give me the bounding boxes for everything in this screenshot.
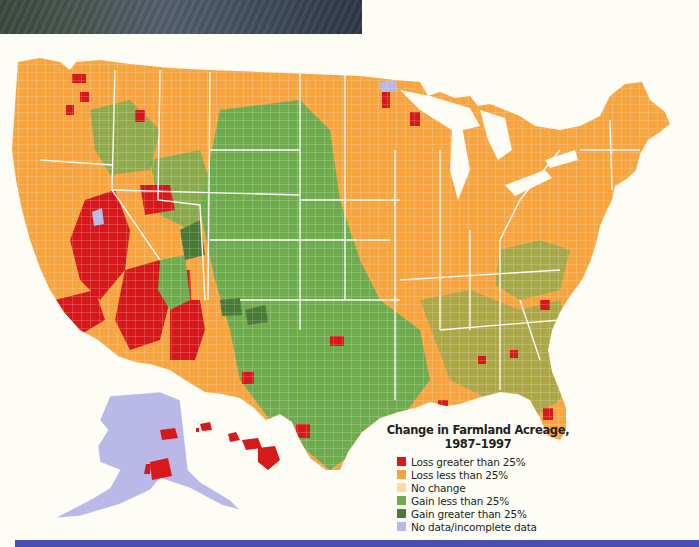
legend-item-loss-gt-25: Loss greater than 25% xyxy=(397,455,573,468)
legend-item-gain-lt-25: Gain less than 25% xyxy=(397,494,573,507)
swatch-green-icon xyxy=(397,496,406,505)
legend-label: No change xyxy=(411,482,465,494)
legend-item-no-data: No data/incomplete data xyxy=(397,520,573,533)
legend-item-gain-gt-25: Gain greater than 25% xyxy=(397,507,573,520)
legend-label: Gain less than 25% xyxy=(411,495,509,507)
farmland-change-map xyxy=(0,34,699,524)
legend-label: Gain greater than 25% xyxy=(411,508,527,520)
footer-band xyxy=(15,540,699,547)
legend-item-loss-lt-25: Loss less than 25% xyxy=(397,468,573,481)
map-legend: Change in Farmland Acreage, 1987–1997 Lo… xyxy=(383,423,573,533)
swatch-tan-icon xyxy=(397,483,406,492)
alaska xyxy=(55,392,240,518)
legend-title: Change in Farmland Acreage, xyxy=(383,423,573,437)
header-photo xyxy=(0,0,362,34)
swatch-dark-green-icon xyxy=(397,509,406,518)
swatch-lavender-icon xyxy=(397,522,406,531)
legend-label: No data/incomplete data xyxy=(411,521,537,533)
swatch-red-icon xyxy=(397,457,406,466)
legend-subtitle: 1987–1997 xyxy=(383,437,573,451)
hawaii xyxy=(196,422,280,470)
legend-item-no-change: No change xyxy=(397,481,573,494)
swatch-orange-icon xyxy=(397,470,406,479)
us-choropleth xyxy=(0,34,699,524)
legend-label: Loss less than 25% xyxy=(411,469,508,481)
legend-label: Loss greater than 25% xyxy=(411,456,526,468)
legend-list: Loss greater than 25% Loss less than 25%… xyxy=(397,455,573,533)
